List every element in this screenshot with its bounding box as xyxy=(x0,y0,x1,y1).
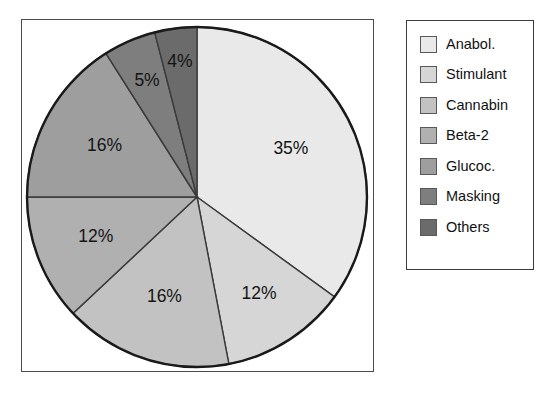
legend-item-label: Beta-2 xyxy=(446,128,489,143)
legend-item[interactable]: Stimulant xyxy=(420,64,533,86)
pie-slice-group xyxy=(27,27,367,367)
pie-slice-label: 35% xyxy=(273,138,308,158)
legend-swatch-icon xyxy=(420,219,437,236)
pie-chart-figure: 35%12%16%12%16%5%4% Anabol.StimulantCann… xyxy=(0,0,547,394)
legend-swatch-icon xyxy=(420,36,437,53)
legend-item[interactable]: Others xyxy=(420,216,533,238)
legend-swatch-icon xyxy=(420,158,437,175)
legend-item[interactable]: Masking xyxy=(420,186,533,208)
legend-item[interactable]: Cannabin xyxy=(420,94,533,116)
legend-swatch-icon xyxy=(420,66,437,83)
legend-item-label: Masking xyxy=(446,189,500,204)
legend-swatch-icon xyxy=(420,97,437,114)
pie-slice-label: 5% xyxy=(134,70,159,90)
pie-slice-label: 12% xyxy=(241,283,276,303)
legend-item[interactable]: Glucoc. xyxy=(420,155,533,177)
pie-slice-label: 4% xyxy=(167,51,192,71)
legend-item-label: Anabol. xyxy=(446,37,495,52)
legend-item-label: Glucoc. xyxy=(446,159,495,174)
pie-slice-label: 12% xyxy=(78,226,113,246)
legend-item[interactable]: Beta-2 xyxy=(420,125,533,147)
pie-slice-label: 16% xyxy=(147,286,182,306)
legend-swatch-icon xyxy=(420,188,437,205)
legend-item[interactable]: Anabol. xyxy=(420,33,533,55)
pie-chart-svg: 35%12%16%12%16%5%4% xyxy=(22,20,375,373)
legend-item-label: Cannabin xyxy=(446,98,508,113)
legend-box: Anabol.StimulantCannabinBeta-2Glucoc.Mas… xyxy=(406,20,534,270)
legend-item-label: Stimulant xyxy=(446,67,506,82)
legend-item-label: Others xyxy=(446,220,490,235)
chart-plot-frame: 35%12%16%12%16%5%4% xyxy=(21,19,374,372)
legend-swatch-icon xyxy=(420,127,437,144)
pie-slice-label: 16% xyxy=(87,135,122,155)
legend-list: Anabol.StimulantCannabinBeta-2Glucoc.Mas… xyxy=(407,33,533,238)
